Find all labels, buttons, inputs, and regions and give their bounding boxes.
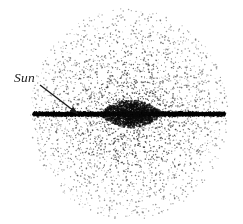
- edge-on-galaxy-figure: Sun: [0, 0, 243, 224]
- galaxy-stipple-canvas: [0, 0, 243, 224]
